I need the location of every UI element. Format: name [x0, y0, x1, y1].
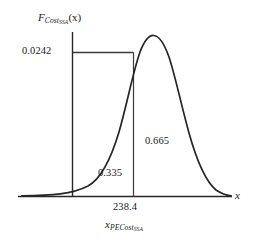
y-axis-label-base: F: [38, 11, 45, 23]
x-axis-label: x: [235, 190, 240, 201]
y-axis-label: FCostSSA(x): [38, 12, 81, 26]
x-point-label-subscript-nested: SSA: [134, 226, 143, 232]
x-point-label-subscript-main: PE: [110, 223, 119, 232]
left-area-label: 0.335: [98, 168, 122, 179]
x-tick-label: 238.4: [113, 202, 137, 213]
x-point-estimate-label: xPECostSSA: [105, 219, 143, 233]
density-curve: [22, 35, 231, 195]
figure-container: FCostSSA(x) x 0.0242 0.335 0.665 238.4 x…: [0, 0, 260, 245]
x-point-label-subscript-secondary: Cost: [119, 223, 133, 232]
right-area-label: 0.665: [145, 136, 169, 147]
y-threshold-label: 0.0242: [22, 46, 51, 57]
y-axis-label-subscript-nested: SSA: [59, 19, 68, 25]
y-axis-label-subscript-main: Cost: [45, 16, 59, 25]
y-axis-label-argument: (x): [68, 11, 81, 23]
